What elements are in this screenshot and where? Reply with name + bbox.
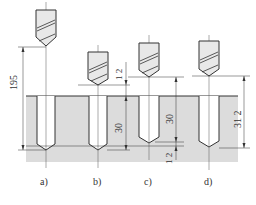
dim-b-clearance: 1 2 xyxy=(114,69,124,80)
drill-d xyxy=(199,41,219,76)
panel-label-c: c) xyxy=(144,176,152,187)
panel-label-d: d) xyxy=(204,176,212,187)
dim-c-depth: 30 xyxy=(164,114,175,124)
dim-b-depth: 30 xyxy=(113,123,124,133)
panel-label-a: a) xyxy=(40,176,48,187)
drill-b xyxy=(88,52,108,85)
panel-label-b: b) xyxy=(93,176,101,187)
dim-d-depth: 31 2 xyxy=(232,111,243,129)
drill-c xyxy=(139,43,159,77)
drill-a xyxy=(36,10,56,46)
drilling-depth-diagram xyxy=(0,0,256,205)
dim-a-195: 195 xyxy=(8,75,19,90)
dim-c-extra: 1 2 xyxy=(164,153,174,164)
